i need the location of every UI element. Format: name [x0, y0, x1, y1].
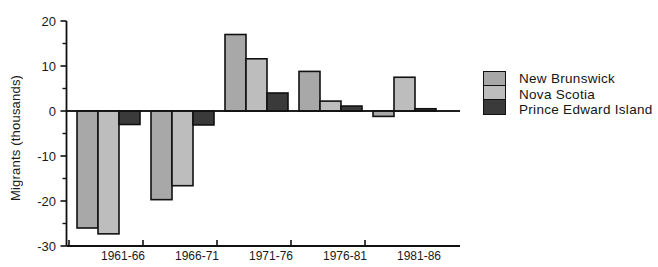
y-tick-label-neg30: -30: [22, 240, 56, 253]
legend-label-stack: New Brunswick Nova Scotia Prince Edward …: [519, 71, 653, 118]
bar: [373, 111, 394, 116]
y-tick-label-0: 0: [22, 105, 56, 118]
bar: [172, 111, 193, 186]
x-tick-label-1961-66: 1961-66: [83, 250, 163, 262]
bar: [98, 111, 119, 234]
bar: [299, 71, 320, 111]
bar: [119, 111, 140, 125]
legend: New Brunswick Nova Scotia Prince Edward …: [483, 71, 653, 118]
x-tick-label-1971-76: 1971-76: [231, 250, 311, 262]
plot-area: [0, 0, 658, 267]
bar: [193, 111, 214, 125]
bar: [77, 111, 98, 228]
legend-label-prince-edward-island: Prince Edward Island: [519, 102, 653, 118]
legend-swatch-new-brunswick: [484, 72, 505, 86]
y-tick-label-10: 10: [22, 60, 56, 73]
legend-label-new-brunswick: New Brunswick: [519, 71, 653, 87]
y-tick-label-neg10: -10: [22, 150, 56, 163]
bar: [267, 93, 288, 111]
y-tick-label-neg20: -20: [22, 195, 56, 208]
bar: [246, 59, 267, 111]
legend-swatch-nova-scotia: [484, 86, 505, 100]
bar: [225, 35, 246, 112]
x-tick-label-1981-86: 1981-86: [379, 250, 459, 262]
legend-swatch-prince-edward-island: [484, 100, 505, 114]
legend-label-nova-scotia: Nova Scotia: [519, 87, 653, 103]
x-tick-label-1966-71: 1966-71: [157, 250, 237, 262]
x-tick-label-1976-81: 1976-81: [305, 250, 385, 262]
bar-series-group: [67, 35, 461, 234]
bar-chart-figure: Migrants (thousands) 20 10 0 -10 -20 -30…: [0, 0, 658, 267]
y-tick-label-20: 20: [22, 15, 56, 28]
axes: [67, 21, 461, 246]
bar: [151, 111, 172, 200]
legend-swatch-stack: [483, 71, 506, 115]
bar: [394, 77, 415, 111]
bar: [320, 101, 341, 111]
y-axis-title: Migrants (thousands): [8, 58, 32, 218]
